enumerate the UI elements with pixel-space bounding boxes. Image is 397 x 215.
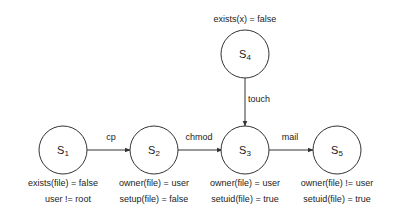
state-s2-condition-0: owner(file) = user (119, 178, 189, 188)
state-s5-condition-1: setuid(file) = true (303, 194, 370, 204)
state-s1-condition-0: exists(file) = false (28, 178, 98, 188)
state-s1-condition-1: user != root (45, 194, 91, 204)
state-s5-condition-0: owner(file) != user (301, 178, 373, 188)
state-s4-condition-0: exists(x) = false (214, 14, 277, 24)
state-s3-condition-1: setuid(file) = true (211, 194, 278, 204)
state-s2-condition-1: setup(file) = false (120, 194, 189, 204)
edge-label-mail: mail (282, 132, 299, 142)
edge-label-chmod: chmod (185, 132, 212, 142)
state-s3-condition-0: owner(file) = user (210, 178, 280, 188)
state-diagram: cp chmod touch mail exists(x) = false S4… (0, 0, 397, 215)
edge-label-touch: touch (248, 94, 270, 104)
edge-label-cp: cp (106, 132, 116, 142)
